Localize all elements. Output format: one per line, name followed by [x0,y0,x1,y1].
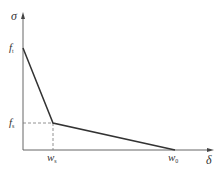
diagram-canvas [0,0,221,170]
x-axis-arrow-icon [207,148,214,152]
tick-label-w0: w0 [168,152,178,164]
tick-label-ws: ws [47,152,57,164]
x-axis-label: δ [206,154,212,166]
softening-curve [23,48,175,150]
y-axis-label: σ [11,10,17,22]
tick-label-ft: ft [9,42,14,54]
y-axis-arrow-icon [21,12,25,19]
tick-label-fs: fs [9,117,14,129]
